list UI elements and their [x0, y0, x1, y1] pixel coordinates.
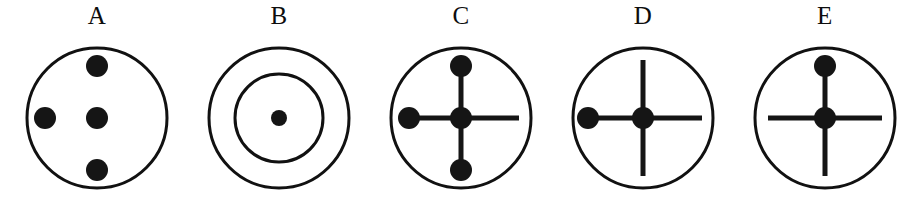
dot-left — [398, 107, 420, 129]
figure-diagram-a — [10, 28, 184, 208]
figure-label-e: E — [738, 2, 912, 30]
figure-diagram-d — [556, 28, 730, 208]
dot-center — [814, 107, 836, 129]
figure-panel-b: B — [192, 0, 366, 221]
figure-panel-c: C — [374, 0, 548, 221]
figure-diagram-b — [192, 28, 366, 208]
dot-bottom — [450, 159, 472, 181]
figure-panel-a: A — [10, 0, 184, 221]
figure-diagram-c — [374, 28, 548, 208]
dot-top — [450, 55, 472, 77]
dot-left — [34, 107, 56, 129]
dot-top — [814, 55, 836, 77]
dot-center — [632, 107, 654, 129]
figure-panel-e: E — [738, 0, 912, 221]
figure-strip: A B C — [0, 0, 922, 221]
figure-label-b: B — [192, 2, 366, 30]
figure-label-c: C — [374, 2, 548, 30]
figure-label-d: D — [556, 2, 730, 30]
figure-panel-d: D — [556, 0, 730, 221]
dot-bottom — [86, 159, 108, 181]
dot-center — [86, 107, 108, 129]
dot-center — [271, 110, 287, 126]
dot-top — [86, 55, 108, 77]
figure-diagram-e — [738, 28, 912, 208]
dot-left — [577, 107, 599, 129]
figure-label-a: A — [10, 2, 184, 30]
dot-center — [450, 107, 472, 129]
